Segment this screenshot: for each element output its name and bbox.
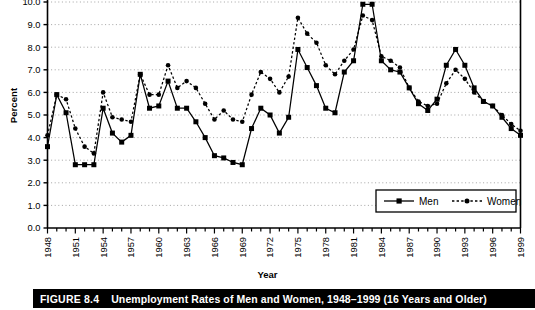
data-point-men — [45, 144, 50, 149]
data-point-men — [509, 126, 514, 131]
figure-caption-number: FIGURE 8.4 — [40, 293, 99, 305]
svg-text:10.0: 10.0 — [22, 0, 40, 7]
data-point-men — [128, 133, 133, 138]
data-point-women — [194, 86, 199, 91]
data-point-women — [323, 63, 328, 68]
data-point-men — [388, 67, 393, 72]
svg-text:1960: 1960 — [154, 237, 164, 258]
data-point-women — [240, 119, 245, 124]
svg-text:2.0: 2.0 — [28, 178, 41, 188]
series-line-women — [48, 16, 521, 154]
data-point-women — [64, 97, 69, 102]
data-point-women — [500, 113, 505, 118]
svg-text:5.0: 5.0 — [28, 110, 41, 120]
data-point-women — [277, 90, 282, 95]
data-point-women — [481, 99, 486, 104]
data-point-women — [425, 104, 430, 109]
svg-text:8.0: 8.0 — [28, 43, 41, 53]
svg-text:1.0: 1.0 — [28, 201, 41, 211]
data-point-women — [259, 70, 264, 75]
svg-text:1951: 1951 — [71, 237, 81, 258]
data-point-women — [490, 104, 495, 109]
data-series-layer — [45, 2, 523, 167]
data-point-men — [249, 126, 254, 131]
svg-text:4.0: 4.0 — [28, 133, 41, 143]
data-point-men — [351, 58, 356, 63]
chart-plot-area: 0.01.02.03.04.05.06.07.08.09.010.0 19481… — [0, 0, 535, 272]
data-point-men — [91, 162, 96, 167]
svg-text:7.0: 7.0 — [28, 65, 41, 75]
data-point-women — [175, 86, 180, 91]
data-point-women — [472, 90, 477, 95]
data-point-men — [119, 140, 124, 145]
data-point-men — [156, 103, 161, 108]
data-point-women — [45, 133, 50, 138]
data-point-men — [258, 106, 263, 111]
data-point-men — [453, 47, 458, 52]
data-point-women — [203, 101, 208, 106]
data-point-men — [295, 47, 300, 52]
svg-text:1954: 1954 — [99, 237, 109, 258]
data-point-women — [379, 54, 384, 59]
data-point-women — [314, 40, 319, 45]
data-point-men — [342, 70, 347, 75]
data-point-women — [138, 72, 143, 77]
data-point-women — [444, 81, 449, 86]
svg-text:3.0: 3.0 — [28, 156, 41, 166]
chart-legend: MenWomen — [376, 190, 521, 212]
svg-text:1978: 1978 — [321, 237, 331, 258]
y-axis-tick-labels: 0.01.02.03.04.05.06.07.08.09.010.0 — [22, 0, 40, 233]
data-point-men — [305, 65, 310, 70]
svg-text:1990: 1990 — [432, 237, 442, 258]
data-point-men — [110, 131, 115, 136]
data-point-women — [435, 101, 440, 106]
data-point-women — [518, 129, 523, 134]
data-point-men — [314, 83, 319, 88]
data-point-men — [203, 135, 208, 140]
data-point-women — [156, 92, 161, 97]
data-point-men — [379, 58, 384, 63]
figure-container: 0.01.02.03.04.05.06.07.08.09.010.0 19481… — [0, 0, 535, 310]
data-point-women — [268, 77, 273, 82]
data-point-women — [110, 115, 115, 120]
data-point-women — [231, 117, 236, 122]
data-point-men — [166, 79, 171, 84]
svg-text:1975: 1975 — [293, 237, 303, 258]
data-point-men — [184, 106, 189, 111]
data-point-men — [193, 119, 198, 124]
svg-text:1999: 1999 — [516, 237, 526, 258]
data-point-men — [286, 115, 291, 120]
data-point-women — [370, 18, 375, 23]
svg-text:1984: 1984 — [377, 237, 387, 258]
data-point-women — [147, 92, 152, 97]
data-point-women — [342, 58, 347, 63]
data-point-men — [221, 155, 226, 160]
svg-text:6.0: 6.0 — [28, 88, 41, 98]
data-point-women — [184, 79, 189, 84]
data-point-women — [453, 68, 458, 73]
svg-text:0.0: 0.0 — [28, 223, 41, 233]
data-point-women — [73, 126, 78, 131]
svg-text:1948: 1948 — [43, 237, 53, 258]
svg-text:1969: 1969 — [238, 237, 248, 258]
data-point-men — [333, 110, 338, 115]
data-point-women — [92, 151, 97, 156]
data-point-women — [54, 92, 59, 97]
data-point-men — [73, 162, 78, 167]
svg-text:1993: 1993 — [460, 237, 470, 258]
data-point-women — [249, 92, 254, 97]
figure-caption-title: Unemployment Rates of Men and Women, 194… — [111, 293, 487, 305]
gridlines — [48, 2, 521, 205]
data-point-men — [64, 110, 69, 115]
data-point-women — [119, 117, 124, 122]
data-point-men — [268, 113, 273, 118]
data-point-men — [240, 162, 245, 167]
data-point-men — [425, 108, 430, 113]
data-point-women — [286, 74, 291, 79]
data-point-men — [175, 106, 180, 111]
data-point-women — [101, 90, 106, 95]
y-axis-title: Percent — [8, 71, 19, 141]
data-point-men — [82, 162, 87, 167]
data-point-men — [360, 2, 365, 7]
data-point-men — [462, 63, 467, 68]
